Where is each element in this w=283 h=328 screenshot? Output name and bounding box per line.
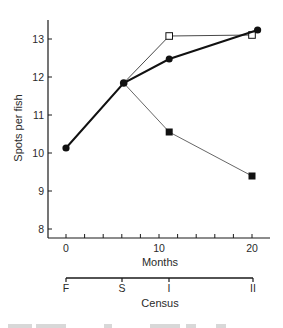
- census-tick-label: F: [63, 282, 69, 294]
- x-tick-label: 10: [153, 242, 165, 254]
- series-filled-square: [124, 83, 256, 180]
- data-point-circle-filled: [254, 26, 261, 33]
- census-tick-label: II: [250, 282, 256, 294]
- y-tick-label: 11: [33, 109, 44, 121]
- data-point-circle-filled: [62, 144, 69, 151]
- data-point-square-filled: [249, 173, 256, 180]
- y-axis-title: Spots per fish: [12, 94, 24, 161]
- y-tick-label: 13: [32, 33, 44, 45]
- data-point-circle-filled: [120, 79, 128, 87]
- x-tick-label: 0: [63, 242, 69, 254]
- y-axis: 13 12 11 10 9 8 Spots per fish: [12, 20, 52, 238]
- x-tick-label: 20: [246, 242, 258, 254]
- series-filled-circle: [62, 26, 261, 151]
- data-point-square-open: [166, 33, 173, 40]
- x-axis: 0 10 20 Months: [48, 234, 270, 268]
- y-tick-label: 12: [32, 71, 44, 83]
- x-axis-title: Months: [142, 256, 179, 268]
- census-tick-label: I: [168, 282, 171, 294]
- y-tick-label: 9: [38, 185, 44, 197]
- line-chart: 13 12 11 10 9 8 Spots per fish 0 10 20 M…: [0, 0, 283, 328]
- data-point-circle-filled: [166, 56, 173, 63]
- caption-remnant: [0, 318, 283, 328]
- series-open-square: [124, 32, 256, 83]
- census-axis: F S I II Census: [63, 278, 256, 309]
- data-point-square-filled: [166, 129, 173, 136]
- census-axis-title: Census: [141, 297, 179, 309]
- y-tick-label: 10: [32, 147, 44, 159]
- census-tick-label: S: [118, 282, 125, 294]
- y-tick-label: 8: [38, 223, 44, 235]
